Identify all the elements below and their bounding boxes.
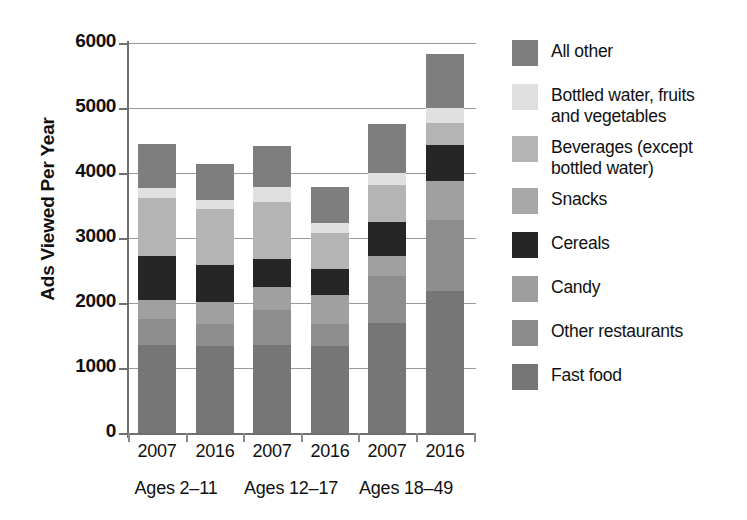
legend-swatch-icon [512,40,538,66]
legend-swatch-icon [512,364,538,390]
legend-swatch-icon [512,232,538,258]
bar-segment [368,323,406,434]
bar-segment [253,146,291,188]
bar-segment [368,256,406,276]
bar-segment [138,300,176,320]
group-label: Ages 18–49 [341,478,471,499]
bar-segment [368,276,406,323]
bar-stack [196,43,234,433]
bar-segment [311,346,349,433]
bar-segment [426,54,464,108]
bar-stack [138,43,176,433]
bar-segment [311,233,349,269]
legend-item[interactable]: All other [512,40,613,66]
bar-segment [138,345,176,433]
bar-segment [253,202,291,259]
legend-swatch-icon [512,188,538,214]
group-label: Ages 12–17 [226,478,356,499]
bar-segment [311,324,349,346]
legend-swatch-icon [512,320,538,346]
legend-label: Other restaurants [551,320,683,342]
bar-stack [368,43,406,433]
y-axis-tick-label: 0 [38,420,116,442]
bar-segment [138,188,176,198]
bar-segment [138,144,176,188]
y-axis-tick-label: 1000 [38,355,116,377]
bar-segment [138,198,176,257]
legend-label: Candy [551,276,600,298]
bar-segment [196,164,234,200]
bar-segment [253,259,291,287]
bar-segment [426,145,464,181]
bar-segment [426,291,464,433]
bar-segment [426,123,464,145]
legend-item[interactable]: Bottled water, fruits and vegetables [512,84,695,127]
legend-label: Beverages (except bottled water) [551,136,693,179]
bar-segment [311,187,349,223]
bar-segment [253,345,291,433]
x-axis-tick-label: 2007 [127,441,187,462]
bar-segment [311,269,349,294]
bar-segment [311,223,349,233]
x-axis-tick-label: 2007 [357,441,417,462]
legend-label: All other [551,40,613,62]
bar-stack [426,43,464,433]
y-axis-tick-label: 3000 [38,225,116,247]
bar-segment [253,287,291,310]
bar-stack [253,43,291,433]
legend-swatch-icon [512,84,538,110]
y-axis-tick-label: 2000 [38,290,116,312]
bar-segment [196,265,234,302]
legend-item[interactable]: Other restaurants [512,320,683,346]
y-axis-tick-label: 4000 [38,160,116,182]
bar-segment [253,187,291,201]
bar-segment [426,181,464,220]
legend-item[interactable]: Candy [512,276,600,302]
y-axis-tick-label: 6000 [38,30,116,52]
legend-item[interactable]: Cereals [512,232,610,258]
legend-label: Snacks [551,188,607,210]
bar-segment [196,302,234,323]
legend-swatch-icon [512,136,538,162]
bar-segment [253,310,291,346]
bar-segment [426,108,464,123]
bar-stack [311,43,349,433]
legend-label: Fast food [551,364,622,386]
x-axis-tick-label: 2016 [415,441,475,462]
group-label: Ages 2–11 [111,478,241,499]
legend-swatch-icon [512,276,538,302]
bar-segment [311,295,349,324]
bar-segment [196,324,234,346]
plot-area [128,43,476,433]
bar-segment [196,200,234,209]
x-axis-tick-label: 2016 [185,441,245,462]
bar-segment [368,222,406,256]
bar-segment [138,256,176,300]
bar-segment [368,173,406,185]
bar-segment [368,124,406,173]
chart-canvas: Ads Viewed Per Year 01000200030004000500… [0,0,747,520]
legend-item[interactable]: Snacks [512,188,607,214]
bar-segment [196,346,234,433]
x-axis-tick-label: 2007 [242,441,302,462]
y-axis-tick-label: 5000 [38,95,116,117]
legend-label: Cereals [551,232,610,254]
legend-item[interactable]: Fast food [512,364,622,390]
bar-segment [138,319,176,345]
legend-item[interactable]: Beverages (except bottled water) [512,136,693,179]
legend-label: Bottled water, fruits and vegetables [551,84,695,127]
bar-segment [368,185,406,222]
bar-segment [196,209,234,265]
bar-segment [426,220,464,291]
x-axis-tick-label: 2016 [300,441,360,462]
